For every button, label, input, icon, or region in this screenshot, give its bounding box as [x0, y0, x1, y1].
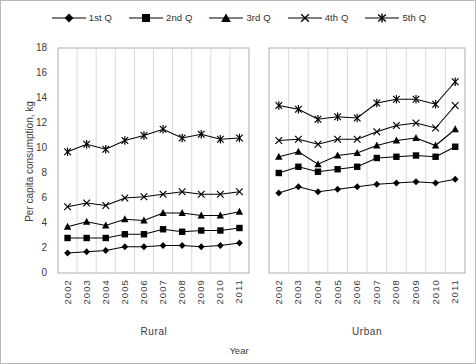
y-tick-label: 18 [23, 43, 47, 53]
x-tick-label: 2004 [101, 279, 111, 305]
y-tick-label: 0 [23, 268, 47, 278]
data-point-2nd-q [122, 231, 128, 237]
data-point-2nd-q [103, 235, 109, 241]
x-tick-label: 2009 [196, 279, 206, 305]
data-point-2nd-q [276, 170, 282, 176]
data-point-2nd-q [217, 227, 223, 233]
data-point-2nd-q [393, 154, 399, 160]
x-tick-label: 2005 [120, 279, 130, 305]
x-axis-title: Year [1, 345, 476, 356]
x-tick-label: 2004 [313, 279, 323, 305]
x-tick-label: 2008 [177, 279, 187, 305]
plot-area [1, 1, 476, 364]
data-point-2nd-q [413, 152, 419, 158]
x-tick-label: 2010 [431, 279, 441, 305]
x-tick-label: 2003 [293, 279, 303, 305]
x-tick-label: 2006 [139, 279, 149, 305]
data-point-2nd-q [334, 166, 340, 172]
data-point-2nd-q [432, 154, 438, 160]
y-tick-label: 10 [23, 143, 47, 153]
x-tick-label: 2007 [372, 279, 382, 305]
y-tick-label: 12 [23, 118, 47, 128]
chart-figure: 1st Q 2nd Q 3rd Q 4th Q [0, 0, 476, 364]
group-label-urban: Urban [269, 326, 465, 337]
x-tick-label: 2011 [450, 279, 460, 304]
data-point-2nd-q [236, 225, 242, 231]
x-tick-label: 2007 [158, 279, 168, 305]
data-point-2nd-q [160, 226, 166, 232]
x-tick-label: 2009 [411, 279, 421, 305]
x-tick-label: 2002 [274, 279, 284, 305]
x-tick-label: 2011 [234, 279, 244, 304]
y-tick-label: 14 [23, 93, 47, 103]
group-label-rural: Rural [59, 326, 249, 337]
data-point-2nd-q [374, 155, 380, 161]
data-point-2nd-q [83, 235, 89, 241]
data-point-2nd-q [179, 229, 185, 235]
data-point-2nd-q [452, 144, 458, 150]
x-tick-label: 2002 [63, 279, 73, 305]
x-tick-label: 2010 [215, 279, 225, 305]
y-tick-label: 6 [23, 193, 47, 203]
x-tick-label: 2008 [391, 279, 401, 305]
data-point-2nd-q [64, 235, 70, 241]
x-tick-label: 2005 [333, 279, 343, 305]
y-tick-label: 4 [23, 218, 47, 228]
data-point-2nd-q [315, 169, 321, 175]
y-tick-label: 2 [23, 243, 47, 253]
data-point-2nd-q [354, 164, 360, 170]
x-tick-label: 2003 [82, 279, 92, 305]
y-tick-label: 8 [23, 168, 47, 178]
data-point-2nd-q [198, 227, 204, 233]
data-point-2nd-q [295, 164, 301, 170]
x-tick-label: 2006 [352, 279, 362, 305]
data-point-2nd-q [141, 231, 147, 237]
y-tick-label: 16 [23, 68, 47, 78]
